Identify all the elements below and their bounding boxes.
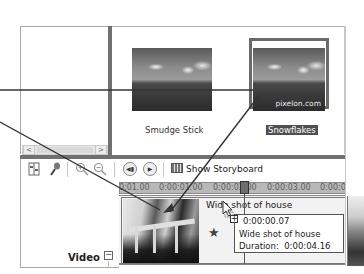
tooltip-clip-name: Wide shot of house: [239, 228, 343, 241]
narrate-timeline-microphone-icon[interactable]: [48, 162, 62, 176]
house-pillar-graphic: [153, 225, 156, 253]
effect-thumbnail[interactable]: pixelon.com: [253, 48, 325, 111]
scroll-right-arrow-icon[interactable]: >: [95, 145, 107, 155]
effect-caption: Smudge Stick: [145, 125, 203, 135]
timeline-toolbar: ◀▮ ▶ Show Storyboard: [20, 159, 346, 180]
effect-thumbnail[interactable]: [132, 48, 212, 111]
tooltip-time: 0:00:00.07: [239, 215, 343, 228]
clip-title: Wide shot of house: [206, 200, 292, 210]
next-clip-thumbnail[interactable]: [347, 196, 364, 266]
tooltip-duration: Duration: 0:00:04.16: [239, 240, 343, 253]
thumbnail-watermark: pixelon.com: [276, 99, 322, 108]
video-track-label: Video: [68, 252, 100, 263]
clip-thumbnail[interactable]: [123, 199, 199, 263]
scrollbar-thumb[interactable]: [37, 147, 93, 153]
zoom-in-icon[interactable]: [75, 162, 89, 176]
tree-connector-line: [108, 261, 109, 268]
ruler-tick-label: 0:00:01.00: [119, 183, 150, 193]
pane-right-border: [345, 26, 346, 266]
house-porch-graphic: [129, 218, 195, 232]
toolbar-separator: [67, 162, 68, 177]
play-icon[interactable]: ▶: [143, 162, 157, 176]
ruler-tick-label: 0:00:04: [320, 183, 346, 193]
effect-caption: Snowflakes: [266, 125, 318, 135]
playhead-indicator[interactable]: [240, 181, 249, 194]
selected-caption-label: Snowflakes: [266, 125, 318, 135]
ruler-tick-label: 0:00:01.00: [159, 183, 203, 193]
house-pillar-graphic: [135, 225, 138, 253]
timeline-ruler[interactable]: 0:00:01.00 0:00:01.00 0:00:02.00 0:00:03…: [119, 182, 346, 194]
transition-star-icon[interactable]: ★: [208, 226, 220, 239]
collections-pane: [20, 26, 109, 154]
collapse-track-icon[interactable]: −: [104, 251, 113, 260]
clip-tooltip: 0:00:00.07 Wide shot of house Duration: …: [234, 214, 344, 253]
tooltip-duration-value: 0:00:04.16: [284, 241, 330, 251]
collections-horizontal-scrollbar[interactable]: < >: [22, 145, 108, 155]
house-pillar-graphic: [175, 225, 178, 253]
film-strip-icon: [171, 163, 183, 173]
rewind-icon[interactable]: ◀▮: [123, 162, 137, 176]
toolbar-separator: [114, 162, 115, 177]
zoom-out-icon[interactable]: [93, 162, 107, 176]
toolbar-separator: [163, 162, 164, 177]
tooltip-duration-label: Duration:: [239, 241, 279, 251]
show-storyboard-label: Show Storyboard: [186, 164, 263, 174]
scroll-left-arrow-icon[interactable]: <: [23, 145, 35, 155]
show-storyboard-button[interactable]: Show Storyboard: [171, 161, 263, 177]
set-audio-levels-icon[interactable]: [27, 162, 41, 176]
drop-plus-icon: +: [230, 215, 238, 223]
ruler-tick-label: 0:00:03.00: [267, 183, 311, 193]
ruler-tick-label: 0:00:02.00: [213, 183, 257, 193]
